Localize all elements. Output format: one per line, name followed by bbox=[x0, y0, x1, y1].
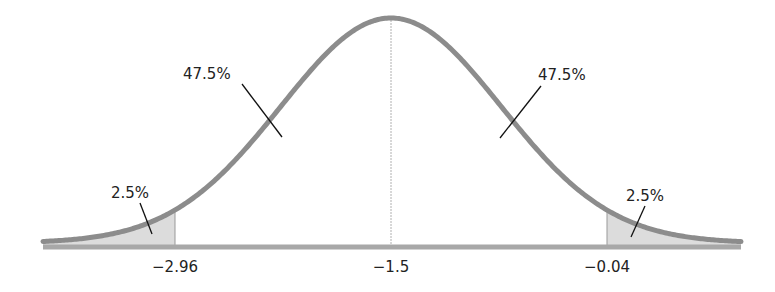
tick-label-mean: −1.5 bbox=[373, 258, 409, 276]
tick-label-right-cutoff: −0.04 bbox=[584, 258, 630, 276]
normal-curve bbox=[43, 18, 741, 242]
percent-label-left-tail: 2.5% bbox=[111, 184, 149, 202]
percent-label-left-mid: 47.5% bbox=[183, 65, 231, 83]
normal-distribution-chart: 2.5% 47.5% 47.5% 2.5% −2.96 −1.5 −0.04 bbox=[0, 0, 775, 292]
tick-label-left-cutoff: −2.96 bbox=[152, 258, 198, 276]
percent-label-right-tail: 2.5% bbox=[626, 187, 664, 205]
percent-label-right-mid: 47.5% bbox=[538, 66, 586, 84]
